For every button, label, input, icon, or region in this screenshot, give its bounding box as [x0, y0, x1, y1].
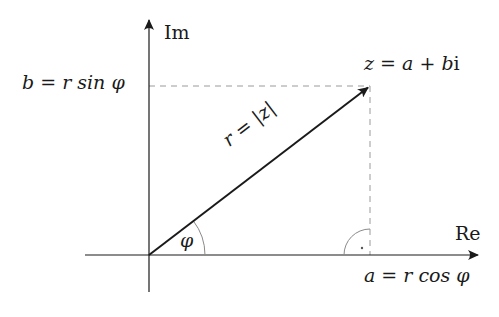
point-label-a: a [402, 52, 413, 74]
point-label-i: i [454, 52, 460, 74]
right-angle-arc [344, 229, 370, 255]
point-label-z: z [364, 52, 374, 74]
angle-arc [193, 221, 205, 255]
imaginary-axis-label: Im [164, 21, 190, 43]
angle-label: φ [180, 229, 193, 251]
real-projection-label: a = r cos φ [364, 264, 470, 286]
imag-projection-label: b = r sin φ [22, 71, 125, 93]
point-label-plus: + [419, 52, 435, 74]
real-axis-label: Re [455, 222, 481, 244]
right-angle-dot [361, 247, 363, 249]
point-label-eq: = [380, 52, 396, 74]
point-label-b: b [441, 52, 453, 74]
point-label: z = a + bi [364, 52, 460, 74]
